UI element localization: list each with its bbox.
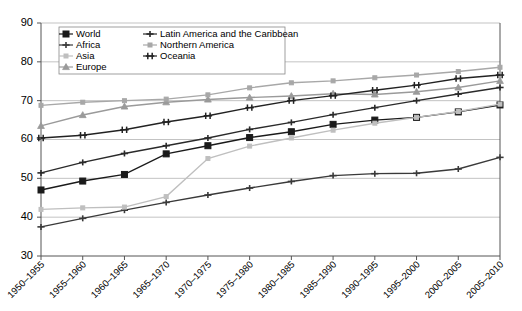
x-axis-ticks-group: 1950–19551955–19601960–19651965–19701970… — [5, 256, 505, 300]
data-point-marker — [63, 31, 69, 37]
data-point-marker — [122, 205, 126, 209]
data-point-marker — [164, 97, 168, 101]
y-axis-tick-label: 90 — [21, 16, 33, 28]
data-point-marker — [455, 91, 462, 97]
data-point-marker — [412, 82, 420, 88]
data-point-marker — [415, 115, 419, 119]
data-point-marker — [122, 99, 126, 103]
data-point-marker — [64, 54, 68, 58]
y-axis-tick-label: 70 — [21, 94, 33, 106]
series-line — [41, 81, 500, 126]
data-point-marker — [206, 157, 210, 161]
data-point-marker — [455, 166, 462, 172]
legend-item-label: Oceania — [160, 50, 196, 61]
x-axis-tick-label: 1995–2000 — [381, 259, 422, 300]
data-point-marker — [289, 136, 293, 140]
legend-item-label: World — [76, 28, 101, 39]
data-point-marker — [37, 224, 44, 230]
data-point-marker — [413, 98, 420, 104]
legend-item-label: Europe — [76, 61, 107, 72]
legend-item-label: Latin America and the Caribbean — [160, 28, 298, 39]
life-expectancy-line-chart: 30405060708090 1950–19551955–19601960–19… — [0, 0, 522, 311]
y-axis-tick-label: 80 — [21, 55, 33, 67]
data-point-marker — [246, 185, 253, 191]
data-point-marker — [121, 150, 128, 156]
series-latin-america-and-the-caribbean — [37, 84, 503, 175]
legend-item-label: Northern America — [160, 39, 235, 50]
data-point-marker — [498, 102, 502, 106]
data-point-marker — [329, 173, 336, 179]
series-line — [41, 157, 500, 227]
data-point-marker — [330, 121, 336, 127]
data-point-marker — [120, 127, 128, 133]
data-point-marker — [248, 144, 252, 148]
data-point-marker — [371, 171, 378, 177]
legend-item: Latin America and the Caribbean — [143, 28, 298, 39]
data-point-marker — [38, 187, 44, 193]
data-point-marker — [79, 215, 86, 221]
legend-item-label: Asia — [76, 50, 95, 61]
x-axis-tick-label: 1955–1960 — [47, 259, 88, 300]
data-point-marker — [413, 170, 420, 176]
chart-canvas: 30405060708090 1950–19551955–19601960–19… — [0, 0, 522, 311]
data-point-marker — [329, 112, 336, 118]
data-point-marker — [288, 178, 295, 184]
data-point-marker — [204, 113, 212, 119]
y-axis-tick-label: 60 — [21, 132, 33, 144]
series-line — [41, 75, 500, 138]
x-axis-tick-label: 1980–1985 — [255, 259, 296, 300]
data-point-marker — [163, 151, 169, 157]
y-axis-tick-label: 40 — [21, 210, 33, 222]
data-point-marker — [80, 178, 86, 184]
data-point-marker — [497, 77, 504, 83]
data-point-marker — [79, 132, 87, 138]
data-point-marker — [81, 206, 85, 210]
data-point-marker — [373, 76, 377, 80]
data-point-marker — [163, 199, 170, 205]
data-point-marker — [415, 73, 419, 77]
series-group — [37, 65, 504, 230]
x-axis-tick-label: 2005–2010 — [464, 259, 505, 300]
data-point-marker — [81, 100, 85, 104]
x-axis-tick-label: 1990–1995 — [339, 259, 380, 300]
data-point-marker — [496, 154, 503, 160]
data-point-marker — [289, 81, 293, 85]
data-point-marker — [456, 70, 460, 74]
y-axis-tick-label: 50 — [21, 171, 33, 183]
data-point-marker — [248, 86, 252, 90]
data-point-marker — [371, 105, 378, 111]
data-point-marker — [373, 121, 377, 125]
data-point-marker — [245, 104, 253, 110]
data-point-marker — [288, 119, 295, 125]
x-axis-tick-label: 1985–1990 — [297, 259, 338, 300]
data-point-marker — [456, 110, 460, 114]
x-axis-tick-label: 1970–1975 — [172, 259, 213, 300]
data-point-marker — [37, 170, 44, 176]
data-point-marker — [39, 103, 43, 107]
x-axis-tick-label: 1960–1965 — [88, 259, 129, 300]
x-axis-tick-label: 2000–2005 — [422, 259, 463, 300]
data-point-marker — [39, 207, 43, 211]
data-point-marker — [204, 192, 211, 198]
x-axis-tick-label: 1965–1970 — [130, 259, 171, 300]
data-point-marker — [204, 135, 211, 141]
data-point-marker — [163, 143, 170, 149]
data-point-marker — [205, 143, 211, 149]
series-africa — [37, 154, 503, 230]
data-point-marker — [454, 75, 462, 81]
data-point-marker — [246, 126, 253, 132]
data-point-marker — [331, 79, 335, 83]
legend-item-label: Africa — [76, 39, 101, 50]
data-point-marker — [288, 129, 294, 135]
data-point-marker — [162, 119, 170, 125]
data-point-marker — [496, 84, 503, 90]
data-point-marker — [121, 171, 127, 177]
data-point-marker — [148, 43, 152, 47]
data-point-marker — [79, 159, 86, 165]
data-point-marker — [247, 135, 253, 141]
chart-legend: WorldLatin America and the CaribbeanAfri… — [59, 27, 298, 74]
x-axis-tick-label: 1950–1955 — [5, 259, 46, 300]
series-oceania — [37, 72, 504, 141]
series-line — [41, 105, 500, 190]
x-axis-tick-label: 1975–1980 — [214, 259, 255, 300]
